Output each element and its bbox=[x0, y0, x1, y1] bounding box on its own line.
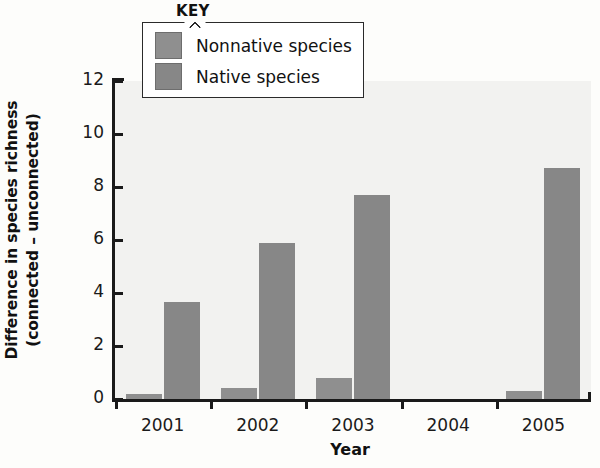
x-axis-title: Year bbox=[112, 440, 588, 459]
legend-label-nonnative: Nonnative species bbox=[196, 36, 352, 56]
y-axis-tick-label: 12 bbox=[82, 69, 104, 89]
bar-nonnative-species-2005 bbox=[506, 391, 542, 399]
y-axis-tick-label: 4 bbox=[93, 281, 104, 301]
y-axis-title-line2: (connected – unconnected) bbox=[24, 113, 42, 347]
x-axis-tick-label: 2005 bbox=[522, 415, 565, 435]
y-axis-tick-label: 0 bbox=[93, 387, 104, 407]
bar-native-species-2005 bbox=[544, 168, 580, 399]
legend-swatch-native bbox=[155, 63, 182, 90]
bar-native-species-2001 bbox=[164, 302, 200, 399]
legend-item-nonnative: Nonnative species bbox=[155, 30, 363, 61]
y-axis-tick: 4 bbox=[112, 292, 123, 295]
plot-area: 02468101220012002200320042005 bbox=[112, 81, 591, 402]
x-axis-tick-label: 2001 bbox=[141, 415, 184, 435]
legend: Nonnative species Native species bbox=[142, 22, 364, 98]
y-axis-tick-label: 10 bbox=[82, 122, 104, 142]
bar-native-species-2003 bbox=[354, 195, 390, 399]
bar-native-species-2002 bbox=[259, 243, 295, 399]
x-axis-right-cap bbox=[588, 392, 591, 402]
x-axis-tick bbox=[401, 399, 404, 409]
bar-chart-figure: Difference in species richness (connecte… bbox=[0, 0, 600, 468]
y-axis-tick: 12 bbox=[112, 80, 123, 83]
y-axis-tick: 10 bbox=[112, 133, 123, 136]
x-axis-tick bbox=[305, 399, 308, 409]
legend-label-native: Native species bbox=[196, 67, 320, 87]
y-axis-tick: 8 bbox=[112, 186, 123, 189]
x-axis-tick bbox=[210, 399, 213, 409]
x-axis-tick bbox=[496, 399, 499, 409]
bar-nonnative-species-2001 bbox=[126, 394, 162, 399]
y-axis-tick-label: 2 bbox=[93, 334, 104, 354]
legend-swatch-nonnative bbox=[155, 32, 182, 59]
bar-nonnative-species-2002 bbox=[221, 388, 257, 399]
y-axis-tick-label: 8 bbox=[93, 175, 104, 195]
legend-item-native: Native species bbox=[155, 61, 363, 92]
y-axis-tick: 6 bbox=[112, 239, 123, 242]
x-axis-tick bbox=[115, 399, 118, 409]
y-axis-tick-label: 6 bbox=[93, 228, 104, 248]
x-axis-tick-label: 2002 bbox=[236, 415, 279, 435]
legend-title: KEY bbox=[176, 2, 210, 20]
bar-nonnative-species-2003 bbox=[316, 378, 352, 399]
y-axis-title-container: Difference in species richness (connecte… bbox=[2, 60, 64, 410]
x-axis-tick-label: 2003 bbox=[331, 415, 374, 435]
y-axis-tick: 2 bbox=[112, 345, 123, 348]
y-axis-title: Difference in species richness (connecte… bbox=[2, 60, 44, 400]
y-axis-title-line1: Difference in species richness bbox=[3, 101, 21, 360]
x-axis-tick-label: 2004 bbox=[427, 415, 470, 435]
